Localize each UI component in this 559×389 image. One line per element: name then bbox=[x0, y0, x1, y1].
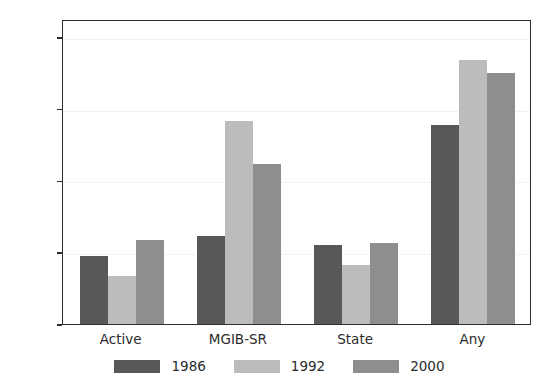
bar bbox=[136, 240, 164, 324]
legend-swatch bbox=[114, 360, 160, 373]
legend: 198619922000 bbox=[0, 358, 559, 374]
x-axis-tick-label: MGIB-SR bbox=[209, 331, 267, 347]
legend-label: 2000 bbox=[410, 358, 444, 374]
x-axis-tick-label: Any bbox=[459, 331, 485, 347]
y-axis-tick-mark bbox=[57, 324, 62, 326]
bar bbox=[253, 164, 281, 324]
legend-label: 1992 bbox=[291, 358, 325, 374]
x-axis-tick-label: State bbox=[337, 331, 373, 347]
bar bbox=[225, 121, 253, 324]
y-axis-tick-mark bbox=[57, 252, 62, 254]
legend-swatch bbox=[234, 360, 280, 373]
bar bbox=[342, 265, 370, 324]
bar bbox=[459, 60, 487, 324]
bar-chart-figure: 0.00.20.40.60.8 ActiveMGIB-SRStateAny 19… bbox=[0, 0, 559, 389]
bar bbox=[431, 125, 459, 324]
legend-label: 1986 bbox=[171, 358, 205, 374]
bar bbox=[487, 73, 515, 324]
legend-item: 1992 bbox=[234, 358, 325, 374]
legend-item: 2000 bbox=[353, 358, 444, 374]
bar bbox=[197, 236, 225, 324]
y-axis-tick-mark bbox=[57, 37, 62, 39]
bar bbox=[370, 243, 398, 324]
gridline bbox=[63, 39, 530, 40]
legend-item: 1986 bbox=[114, 358, 205, 374]
bar bbox=[314, 245, 342, 324]
legend-swatch bbox=[353, 360, 399, 373]
bar bbox=[80, 256, 108, 324]
x-axis-tick-label: Active bbox=[100, 331, 142, 347]
bar bbox=[108, 276, 136, 324]
plot-area bbox=[62, 20, 531, 325]
y-axis-tick-mark bbox=[57, 109, 62, 111]
y-axis-tick-mark bbox=[57, 181, 62, 183]
